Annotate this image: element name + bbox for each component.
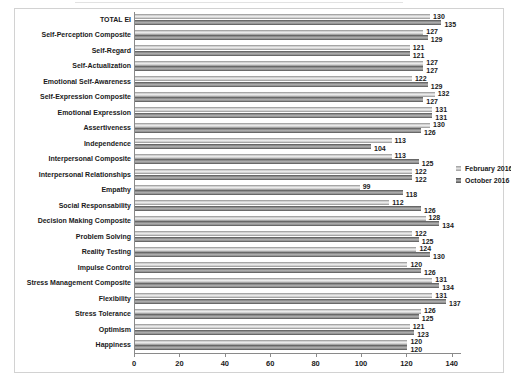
- bar-october: [135, 283, 439, 288]
- bar-october: [135, 51, 410, 56]
- category-label: Impulse Control: [17, 261, 131, 274]
- category-label: Assertiveness: [17, 121, 131, 134]
- bar-october: [135, 221, 439, 226]
- bar-february: [135, 324, 410, 329]
- value-label-october: 135: [444, 21, 456, 29]
- bar-october: [135, 175, 412, 180]
- value-label-february: 121: [413, 44, 425, 52]
- legend: February 2016 October 2016: [456, 165, 511, 189]
- category-label: Interpersonal Relationships: [17, 168, 131, 181]
- bar-february: [135, 278, 432, 283]
- bar-february: [135, 14, 430, 19]
- x-tick-mark: [406, 354, 407, 357]
- x-tick-label: 120: [392, 359, 420, 368]
- bar-february: [135, 200, 389, 205]
- category-label: Optimism: [17, 323, 131, 336]
- value-label-february: 113: [395, 137, 406, 145]
- x-tick-mark: [134, 354, 135, 357]
- bar-february: [135, 293, 432, 298]
- bar-february: [135, 216, 426, 221]
- value-label-february: 127: [426, 59, 438, 67]
- value-label-february: 122: [415, 168, 427, 176]
- category-label: Flexibility: [17, 292, 131, 305]
- x-tick-mark: [361, 354, 362, 357]
- bar-october: [135, 252, 430, 257]
- y-axis-line: [134, 12, 135, 354]
- bar-february: [135, 309, 421, 314]
- legend-label-october: October 2016: [465, 177, 509, 184]
- bar-october: [135, 82, 428, 87]
- category-label: Social Responsability: [17, 199, 131, 212]
- value-label-october: 121: [413, 52, 425, 60]
- bar-february: [135, 123, 430, 128]
- category-label: Self-Expression Composite: [17, 90, 131, 103]
- bar-october: [135, 190, 403, 195]
- category-label: Empathy: [17, 183, 131, 196]
- bar-october: [135, 66, 423, 71]
- value-label-february: 130: [433, 121, 445, 129]
- bar-february: [135, 247, 416, 252]
- value-label-february: 127: [426, 28, 438, 36]
- bar-october: [135, 159, 419, 164]
- x-tick-label: 40: [211, 359, 239, 368]
- value-label-october: 137: [449, 300, 461, 308]
- chart-container: TOTAL EI130135Self-Perception Composite1…: [14, 8, 504, 373]
- category-label: Self-Perception Composite: [17, 28, 131, 41]
- x-tick-mark: [179, 354, 180, 357]
- bar-october: [135, 97, 423, 102]
- category-label: Self-Regard: [17, 44, 131, 57]
- bar-february: [135, 30, 423, 35]
- bar-february: [135, 262, 407, 267]
- bar-october: [135, 330, 414, 335]
- bar-october: [135, 20, 441, 25]
- x-axis-line: [134, 353, 461, 354]
- legend-item-february: February 2016: [456, 165, 511, 172]
- value-label-february: 131: [435, 106, 447, 114]
- value-label-february: 121: [413, 323, 425, 331]
- category-label: Emotional Expression: [17, 106, 131, 119]
- value-label-october: 104: [374, 145, 386, 153]
- x-tick-label: 20: [165, 359, 193, 368]
- value-label-october: 134: [442, 222, 454, 230]
- bar-october: [135, 128, 421, 133]
- value-label-february: 132: [438, 90, 450, 98]
- x-tick-label: 100: [347, 359, 375, 368]
- legend-swatch-february-icon: [456, 166, 461, 171]
- value-label-october: 122: [415, 176, 427, 184]
- x-tick-mark: [452, 354, 453, 357]
- bar-october: [135, 299, 446, 304]
- category-label: Interpersonal Composite: [17, 152, 131, 165]
- legend-label-february: February 2016: [465, 165, 511, 172]
- value-label-october: 118: [406, 191, 417, 199]
- value-label-october: 127: [426, 67, 438, 75]
- category-label: Stress Management Composite: [17, 276, 131, 289]
- value-label-october: 126: [424, 269, 436, 277]
- x-tick-label: 80: [302, 359, 330, 368]
- bar-february: [135, 169, 412, 174]
- x-tick-mark: [225, 354, 226, 357]
- bar-february: [135, 107, 432, 112]
- bar-february: [135, 92, 435, 97]
- category-label: Decision Making Composite: [17, 214, 131, 227]
- bar-february: [135, 154, 392, 159]
- legend-item-october: October 2016: [456, 177, 511, 184]
- category-label: Emotional Self-Awareness: [17, 75, 131, 88]
- bar-february: [135, 185, 360, 190]
- value-label-february: 120: [410, 338, 422, 346]
- bar-october: [135, 113, 432, 118]
- x-tick-label: 0: [120, 359, 148, 368]
- bar-october: [135, 237, 419, 242]
- bar-october: [135, 314, 419, 319]
- bar-february: [135, 61, 423, 66]
- category-label: Reality Testing: [17, 245, 131, 258]
- category-label: Stress Tolerance: [17, 307, 131, 320]
- bar-february: [135, 340, 407, 345]
- bar-february: [135, 138, 392, 143]
- legend-swatch-october-icon: [456, 178, 461, 183]
- x-tick-label: 60: [256, 359, 284, 368]
- category-label: Independence: [17, 137, 131, 150]
- bar-october: [135, 144, 371, 149]
- bar-october: [135, 35, 428, 40]
- category-label: TOTAL EI: [17, 13, 131, 26]
- value-label-october: 126: [424, 129, 436, 137]
